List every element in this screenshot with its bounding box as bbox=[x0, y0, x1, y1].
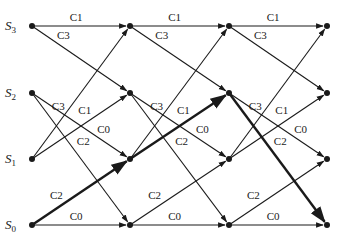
edge-label: C1 bbox=[275, 104, 288, 116]
edge-label: C3 bbox=[150, 100, 163, 112]
state-node-s3 bbox=[127, 23, 133, 29]
trellis-diagram: C1C3C0C2C3C1C2C0C1C3C0C2C3C1C2C0C1C3C0C2… bbox=[0, 0, 346, 243]
edge-label: C0 bbox=[70, 210, 83, 222]
state-label-s2: S2 bbox=[5, 85, 16, 102]
edge-label: C2 bbox=[175, 135, 188, 147]
state-node-s2 bbox=[29, 90, 35, 96]
edge-label: C1 bbox=[70, 11, 83, 23]
state-node-s2 bbox=[127, 90, 133, 96]
edge-label: C3 bbox=[155, 29, 168, 41]
edge-label: C3 bbox=[57, 29, 70, 41]
transition-s2-to-s1 bbox=[130, 93, 226, 157]
state-node-s3 bbox=[226, 23, 232, 29]
transition-s2-to-s1 bbox=[229, 93, 324, 157]
edge-label: C2 bbox=[247, 189, 260, 201]
state-node-s0 bbox=[127, 222, 133, 228]
transition-s3-to-s2 bbox=[32, 26, 127, 91]
state-node-s3 bbox=[29, 23, 35, 29]
state-node-s2 bbox=[324, 90, 330, 96]
transition-s3-to-s2 bbox=[130, 26, 226, 91]
state-node-s0 bbox=[324, 222, 330, 228]
state-node-s1 bbox=[324, 156, 330, 162]
edge-label: C2 bbox=[274, 135, 287, 147]
transition-s3-to-s2 bbox=[229, 26, 324, 91]
state-node-s0 bbox=[226, 222, 232, 228]
state-node-s2 bbox=[226, 90, 232, 96]
edge-label: C1 bbox=[168, 11, 181, 23]
edge-label: C0 bbox=[267, 210, 280, 222]
edge-label: C2 bbox=[50, 189, 63, 201]
edge-label: C3 bbox=[52, 100, 65, 112]
edge-label: C0 bbox=[97, 123, 110, 135]
edge-label: C0 bbox=[294, 123, 307, 135]
state-node-s1 bbox=[29, 156, 35, 162]
edge-label: C2 bbox=[77, 135, 90, 147]
state-node-s1 bbox=[127, 156, 133, 162]
edge-label: C1 bbox=[267, 11, 280, 23]
state-node-s1 bbox=[226, 156, 232, 162]
edge-label: C1 bbox=[78, 104, 91, 116]
state-node-s3 bbox=[324, 23, 330, 29]
state-label-s1: S1 bbox=[5, 151, 16, 168]
edge-label: C1 bbox=[177, 104, 190, 116]
edge-label: C0 bbox=[196, 123, 209, 135]
transition-s2-to-s1 bbox=[32, 93, 127, 157]
state-node-s0 bbox=[29, 222, 35, 228]
state-label-s3: S3 bbox=[5, 18, 17, 35]
edge-label: C3 bbox=[249, 100, 262, 112]
edge-label: C0 bbox=[168, 210, 181, 222]
state-label-s0: S0 bbox=[5, 217, 17, 234]
edge-label: C3 bbox=[254, 29, 267, 41]
edge-label: C2 bbox=[148, 189, 161, 201]
